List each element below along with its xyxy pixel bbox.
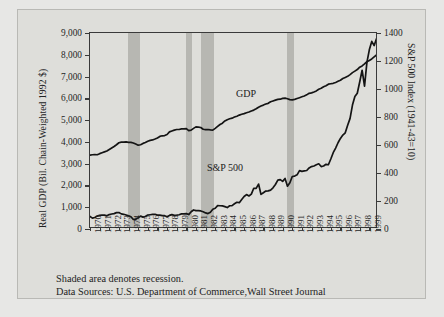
y-axis-right-tick-label: 1200: [384, 56, 403, 66]
x-axis-tick-label: 1989: [276, 215, 286, 233]
x-axis-tick: [263, 227, 264, 231]
x-axis-tick: [234, 227, 235, 231]
y-axis-right-title: S&P 500 Index (1941-43=10): [406, 43, 417, 160]
y-axis-left-tick-label: 7,000: [61, 72, 82, 82]
x-axis-tick: [157, 227, 158, 231]
x-axis-tick: [292, 227, 293, 231]
y-axis-left-tick-label: 3,000: [61, 159, 82, 169]
x-axis-tick-label: 1986: [248, 215, 258, 233]
y-axis-left-tick: [85, 120, 90, 121]
x-axis-tick: [302, 227, 303, 231]
x-axis-tick: [109, 227, 110, 231]
note-recession: Shaded area denotes recession.: [56, 272, 326, 285]
x-axis-tick: [312, 227, 313, 231]
y-axis-right-tick: [376, 33, 381, 34]
y-axis-right-tick-label: 0: [384, 224, 389, 234]
x-axis-tick: [100, 227, 101, 231]
y-axis-left-tick: [85, 77, 90, 78]
y-axis-left-title: Real GDP (Bil. Chain-Weighted 1992 $): [37, 69, 48, 228]
series-label-sp500: S&P 500: [207, 162, 243, 173]
x-axis-tick-label: 1976: [151, 215, 161, 233]
x-axis-tick: [225, 227, 226, 231]
y-axis-left-tick: [85, 164, 90, 165]
x-axis-tick-label: 1984: [228, 215, 238, 233]
x-axis-tick: [206, 227, 207, 231]
y-axis-left-tick-label: 9,000: [61, 28, 82, 38]
x-axis-tick-label: 1990: [286, 215, 296, 233]
y-axis-left-tick-label: 4,000: [61, 137, 82, 147]
x-axis-tick: [340, 227, 341, 231]
series-path-gdp: [90, 55, 376, 155]
figure-panel: Real GDP (Bil. Chain-Weighted 1992 $) S&…: [17, 9, 426, 299]
plot-area: 01,0002,0003,0004,0005,0006,0007,0008,00…: [89, 32, 377, 228]
x-axis-tick-label: 1997: [353, 215, 363, 233]
y-axis-right-tick: [376, 89, 381, 90]
x-axis-tick: [148, 227, 149, 231]
x-axis-tick-label: 1979: [180, 215, 190, 233]
x-axis-tick-label: 1978: [170, 215, 180, 233]
x-axis-tick-label: 1992: [305, 215, 315, 233]
y-axis-left-tick: [85, 98, 90, 99]
y-axis-right-tick: [376, 173, 381, 174]
y-axis-right-tick-label: 600: [384, 140, 398, 150]
x-axis-tick: [254, 227, 255, 231]
x-axis-tick-label: 1970: [93, 215, 103, 233]
y-axis-left-tick-label: 2,000: [61, 180, 82, 190]
x-axis-tick: [119, 227, 120, 231]
y-axis-left-tick: [85, 142, 90, 143]
y-axis-right-tick: [376, 145, 381, 146]
y-axis-left-tick-label: 8,000: [61, 50, 82, 60]
y-axis-left-tick-label: 1,000: [61, 202, 82, 212]
y-axis-right-tick-label: 200: [384, 196, 398, 206]
y-axis-right-tick: [376, 117, 381, 118]
y-axis-right-tick-label: 1400: [384, 28, 403, 38]
x-axis-tick-label: 1999: [373, 215, 383, 233]
y-axis-left-tick: [85, 207, 90, 208]
x-axis-tick: [215, 227, 216, 231]
x-axis-tick: [196, 227, 197, 231]
series-path-s-p-500: [90, 39, 376, 220]
series-lines: [90, 33, 376, 227]
y-axis-left-tick: [85, 55, 90, 56]
x-axis-tick: [360, 227, 361, 231]
x-axis-tick-label: 1995: [334, 215, 344, 233]
x-axis-tick-label: 1993: [315, 215, 325, 233]
series-label-gdp: GDP: [236, 88, 256, 99]
x-axis-tick-label: 1998: [363, 215, 373, 233]
x-axis-tick-label: 1973: [122, 215, 132, 233]
y-axis-left-tick-label: 0: [77, 224, 82, 234]
x-axis-tick-label: 1985: [238, 215, 248, 233]
x-axis-tick-label: 1981: [199, 215, 209, 233]
x-axis-tick: [177, 227, 178, 231]
x-axis-tick: [90, 227, 91, 231]
y-axis-left-tick-label: 6,000: [61, 93, 82, 103]
x-axis-tick: [138, 227, 139, 231]
note-sources: Data Sources: U.S. Department of Commerc…: [56, 285, 326, 298]
x-axis-tick-label: 1974: [132, 215, 142, 233]
x-axis-tick-label: 1982: [209, 215, 219, 233]
x-axis-tick: [283, 227, 284, 231]
x-axis-tick: [331, 227, 332, 231]
y-axis-right-tick-label: 400: [384, 168, 398, 178]
x-axis-tick-label: 1971: [103, 215, 113, 233]
y-axis-left-tick-label: 5,000: [61, 115, 82, 125]
y-axis-left-tick: [85, 33, 90, 34]
x-axis-tick: [321, 227, 322, 231]
x-axis-tick-label: 1987: [257, 215, 267, 233]
x-axis-tick: [369, 227, 370, 231]
figure-notes: Shaded area denotes recession. Data Sour…: [56, 272, 326, 299]
x-axis-tick: [186, 227, 187, 231]
y-axis-right-tick-label: 800: [384, 112, 398, 122]
x-axis-tick: [167, 227, 168, 231]
y-axis-right-tick: [376, 61, 381, 62]
y-axis-left-tick: [85, 185, 90, 186]
x-axis-tick: [244, 227, 245, 231]
x-axis-tick: [273, 227, 274, 231]
x-axis-tick: [129, 227, 130, 231]
y-axis-right-tick: [376, 201, 381, 202]
plot-inner: [90, 33, 376, 227]
x-axis-tick: [350, 227, 351, 231]
y-axis-right-tick-label: 1000: [384, 84, 403, 94]
